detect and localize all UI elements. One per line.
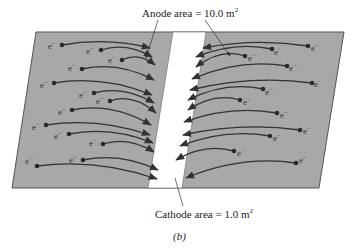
electron-dot bbox=[294, 161, 299, 166]
electron-dot bbox=[108, 99, 113, 104]
electron-dot bbox=[70, 108, 75, 113]
electron-dot bbox=[268, 134, 273, 139]
electron-dot bbox=[52, 81, 57, 86]
anode-area-label: Anode area = 10.0 m2 bbox=[142, 6, 238, 19]
electron-dot bbox=[120, 58, 125, 63]
electron-dot bbox=[101, 142, 106, 147]
electron-dot bbox=[306, 44, 311, 49]
electron-dot bbox=[275, 111, 280, 116]
electron-dot bbox=[99, 48, 104, 53]
electron-dot bbox=[80, 67, 85, 72]
electron-dot bbox=[238, 98, 243, 103]
electron-dot bbox=[60, 43, 65, 48]
electron-dot bbox=[92, 91, 97, 96]
cathode-area-label: Cathode area = 1.0 m2 bbox=[155, 207, 253, 220]
electron-dot bbox=[67, 132, 72, 137]
electron-dot bbox=[232, 149, 237, 154]
figure-caption: (b) bbox=[173, 230, 186, 242]
electron-dot bbox=[81, 158, 86, 163]
electron-dot bbox=[243, 54, 248, 59]
electron-dot bbox=[35, 164, 40, 169]
electron-dot bbox=[44, 123, 49, 128]
electron-dot bbox=[298, 128, 303, 133]
